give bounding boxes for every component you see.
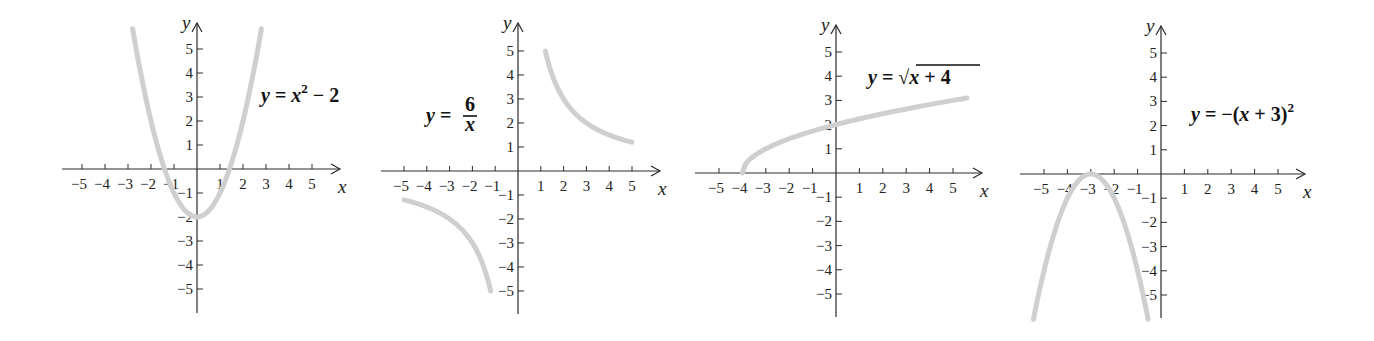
y-tick-label: 5 — [825, 44, 833, 60]
x-tick-label: 2 — [239, 176, 247, 192]
fraction-denominator: x — [464, 113, 475, 135]
x-tick-label: 4 — [926, 180, 934, 196]
y-tick-label: −2 — [498, 211, 514, 227]
x-tick-label: 4 — [1251, 181, 1259, 197]
y-tick-label: −4 — [1141, 263, 1157, 279]
y-tick-label: 5 — [507, 43, 515, 59]
x-tick-label: 2 — [1204, 181, 1212, 197]
graph-4: xy−5−4−3−2−112345−5−4−3−2−112345y = −(x … — [1020, 15, 1312, 319]
y-tick-label: −5 — [816, 286, 832, 302]
x-tick-label: −3 — [439, 178, 455, 194]
equation-label: y = x2 − 2 — [259, 81, 339, 107]
y-tick-label: −3 — [1141, 239, 1157, 255]
y-tick-label: 3 — [825, 92, 833, 108]
x-tick-label: 3 — [262, 176, 270, 192]
x-tick-label: 3 — [583, 178, 591, 194]
x-tick-label: 5 — [1274, 181, 1282, 197]
y-tick-label: 1 — [507, 139, 515, 155]
x-axis-label: x — [657, 178, 667, 199]
graph-1: xy−5−4−3−2−112345−5−4−3−2−112345y = x2 −… — [62, 12, 347, 313]
y-tick-label: −3 — [498, 235, 514, 251]
y-tick-label: −4 — [177, 257, 193, 273]
x-tick-label: −5 — [71, 176, 87, 192]
x-tick-label: −4 — [416, 178, 432, 194]
y-axis-label: y — [819, 14, 830, 35]
function-curve — [742, 98, 967, 173]
y-tick-label: −4 — [816, 262, 832, 278]
y-tick-label: −3 — [816, 238, 832, 254]
y-tick-label: 2 — [507, 115, 515, 131]
graph-3: xy−5−4−3−2−112345−5−4−3−2−112345y = √x +… — [695, 14, 989, 317]
x-tick-label: −5 — [393, 178, 409, 194]
y-axis-label: y — [1144, 15, 1155, 36]
y-tick-label: 2 — [1150, 118, 1158, 134]
y-tick-label: 5 — [1150, 45, 1158, 61]
x-tick-label: 5 — [628, 178, 636, 194]
x-tick-label: −3 — [1080, 181, 1096, 197]
x-tick-label: 3 — [902, 180, 910, 196]
y-tick-label: 4 — [186, 65, 194, 81]
equation-label: y = — [424, 104, 451, 127]
y-tick-label: −5 — [177, 281, 193, 297]
function-graphs-svg: xy−5−4−3−2−112345−5−4−3−2−112345y = x2 −… — [0, 0, 1374, 341]
y-tick-label: 3 — [507, 91, 515, 107]
x-tick-label: −3 — [117, 176, 133, 192]
y-tick-label: 3 — [186, 89, 194, 105]
y-tick-label: 2 — [186, 113, 194, 129]
y-tick-label: −1 — [1141, 190, 1157, 206]
graphs-figure: xy−5−4−3−2−112345−5−4−3−2−112345y = x2 −… — [0, 0, 1374, 341]
y-tick-label: 4 — [507, 67, 515, 83]
curve-branch-2 — [545, 51, 632, 142]
y-tick-label: −1 — [498, 187, 514, 203]
equation-label: y = −(x + 3)2 — [1189, 100, 1294, 126]
x-tick-label: 4 — [605, 178, 613, 194]
y-tick-label: −2 — [816, 213, 832, 229]
y-tick-label: −2 — [1141, 214, 1157, 230]
y-axis-label: y — [180, 12, 191, 33]
x-tick-label: 5 — [949, 180, 957, 196]
x-axis-label: x — [1302, 181, 1312, 202]
y-tick-label: −1 — [816, 189, 832, 205]
x-tick-label: −5 — [708, 180, 724, 196]
curve-branch-1 — [404, 200, 491, 291]
x-tick-label: −2 — [461, 178, 477, 194]
y-axis-label: y — [501, 12, 512, 33]
y-tick-label: 1 — [825, 141, 833, 157]
y-tick-label: 4 — [825, 68, 833, 84]
y-tick-label: −5 — [498, 283, 514, 299]
x-tick-label: −4 — [731, 180, 747, 196]
x-tick-label: −4 — [94, 176, 110, 192]
equation-label: y = √x + 4 — [866, 66, 951, 89]
y-tick-label: 3 — [1150, 93, 1158, 109]
graph-2: xy−5−4−3−2−112345−5−4−3−2−112345y = 6x — [381, 12, 667, 314]
x-tick-label: 1 — [856, 180, 864, 196]
x-tick-label: 1 — [1181, 181, 1189, 197]
x-axis-label: x — [979, 180, 989, 201]
x-tick-label: 5 — [308, 176, 316, 192]
x-tick-label: 2 — [560, 178, 568, 194]
y-tick-label: 1 — [1150, 142, 1158, 158]
x-tick-label: −2 — [140, 176, 156, 192]
x-tick-label: 3 — [1227, 181, 1235, 197]
y-tick-label: −4 — [498, 259, 514, 275]
x-tick-label: −3 — [755, 180, 771, 196]
x-tick-label: −2 — [778, 180, 794, 196]
x-axis-label: x — [337, 176, 347, 197]
y-tick-label: 1 — [186, 137, 194, 153]
x-tick-label: 2 — [879, 180, 887, 196]
y-tick-label: −3 — [177, 233, 193, 249]
x-tick-label: 1 — [537, 178, 545, 194]
x-tick-label: −5 — [1033, 181, 1049, 197]
x-tick-label: 4 — [285, 176, 293, 192]
y-tick-label: 4 — [1150, 69, 1158, 85]
fraction-numerator: 6 — [465, 93, 475, 115]
y-tick-label: 5 — [186, 41, 194, 57]
